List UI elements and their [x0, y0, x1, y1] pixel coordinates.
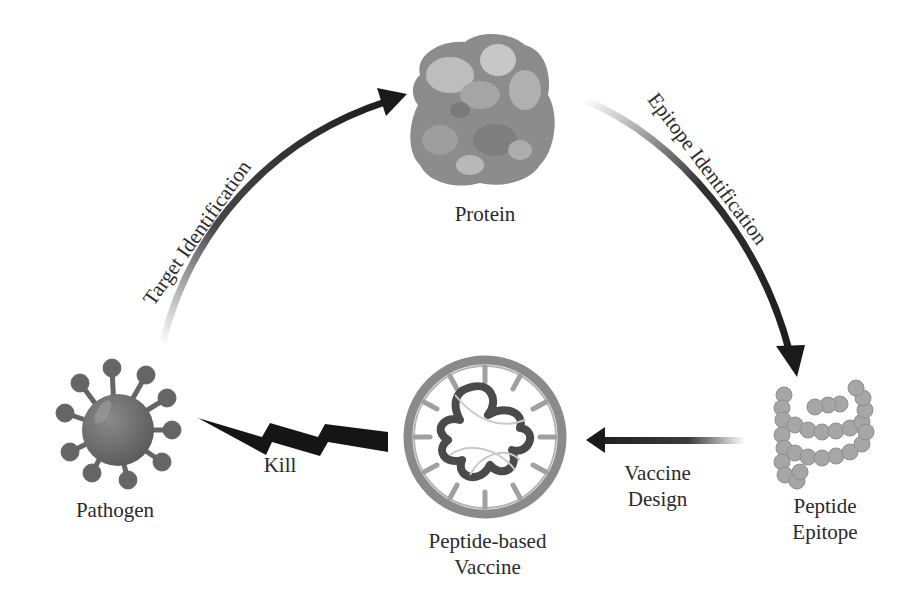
protein-label: Protein	[410, 201, 560, 227]
protein-icon	[410, 34, 554, 186]
virus-icon	[56, 359, 181, 489]
vaccine-design-line2: Design	[600, 486, 715, 512]
vaccine-line2: Vaccine	[400, 554, 575, 580]
peptide-chain-icon	[774, 380, 874, 489]
vaccine-line1: Peptide-based	[400, 528, 575, 554]
vaccine-particle-icon	[408, 360, 562, 514]
peptide-epitope-line1: Peptide	[760, 493, 890, 519]
pathogen-label: Pathogen	[40, 497, 190, 523]
vaccine-design-line1: Vaccine	[600, 460, 715, 486]
kill-lightning-icon	[198, 418, 388, 456]
vaccine-design-label: Vaccine Design	[600, 460, 715, 512]
peptide-epitope-line2: Epitope	[760, 519, 890, 545]
peptide-epitope-label: Peptide Epitope	[760, 493, 890, 545]
vaccine-label: Peptide-based Vaccine	[400, 528, 575, 580]
kill-label: Kill	[240, 452, 320, 478]
vaccine-design-arrow	[586, 427, 745, 453]
